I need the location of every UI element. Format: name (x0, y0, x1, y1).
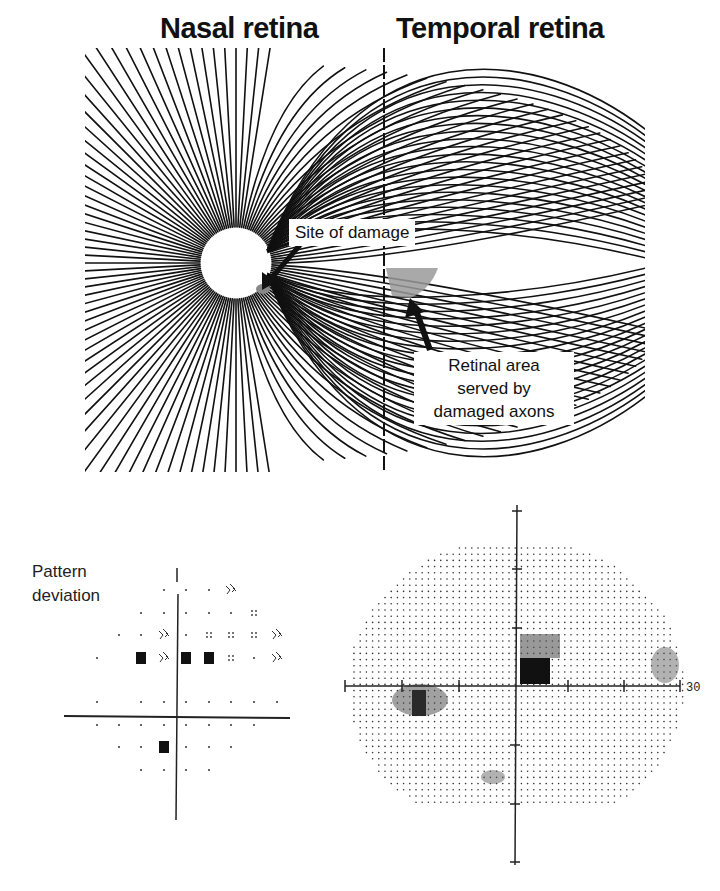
pattern-deviation-label: Pattern deviation (32, 560, 100, 608)
retinal-area-line-2: served by (416, 377, 572, 400)
damaged-area-shade (386, 268, 438, 298)
site-of-damage-label: Site of damage (289, 219, 415, 246)
retinal-area-line-1: Retinal area (416, 354, 572, 377)
eccentricity-axis-label: 30 (686, 681, 700, 695)
retinal-area-label: Retinal area served by damaged axons (414, 352, 574, 425)
retinal-area-line-3: damaged axons (416, 400, 572, 423)
pattern-deviation-line-1: Pattern (32, 560, 100, 584)
pattern-deviation-line-2: deviation (32, 584, 100, 608)
